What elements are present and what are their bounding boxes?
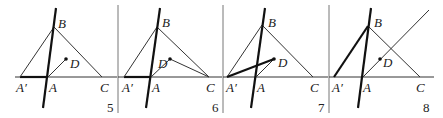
label-c: C — [310, 80, 319, 95]
segment-a-prime-d — [227, 59, 274, 77]
panel-5: B D A′ A C 5 — [15, 8, 117, 115]
label-a: A — [362, 80, 371, 95]
label-d: D — [157, 56, 168, 71]
label-a-prime: A′ — [121, 80, 133, 95]
label-b: B — [374, 15, 382, 30]
label-d: D — [277, 55, 288, 70]
label-b: B — [268, 15, 276, 30]
point-d — [378, 57, 382, 61]
geometry-figure: B D A′ A C 5 B D A′ A C 6 B D A′ A C — [0, 0, 443, 118]
label-a-prime: A′ — [331, 80, 343, 95]
panel-number: 6 — [212, 100, 219, 115]
label-d: D — [382, 55, 393, 70]
side-b-c — [262, 25, 313, 77]
point-d — [168, 57, 172, 61]
label-a: A — [48, 80, 57, 95]
label-b: B — [58, 16, 66, 31]
panel-number: 7 — [318, 100, 325, 115]
panel-number: 8 — [423, 100, 430, 115]
panel-6: B D A′ A C 6 — [118, 8, 222, 115]
ray-a-d — [363, 10, 429, 77]
side-b-c — [368, 26, 420, 77]
label-a: A — [256, 80, 265, 95]
segment-a-d — [48, 59, 66, 77]
label-a: A — [151, 80, 160, 95]
label-c: C — [206, 80, 215, 95]
label-d: D — [69, 56, 80, 71]
panel-7: B D A′ A C 7 — [223, 8, 328, 115]
diagram-canvas: B D A′ A C 5 B D A′ A C 6 B D A′ A C — [0, 0, 443, 118]
panel-number: 5 — [107, 100, 114, 115]
label-a-prime: A′ — [15, 80, 27, 95]
point-d — [64, 57, 68, 61]
point-d — [272, 57, 276, 61]
segment-d-c — [170, 59, 209, 77]
label-a-prime: A′ — [225, 80, 237, 95]
label-b: B — [162, 15, 170, 30]
label-c: C — [416, 80, 425, 95]
panel-8: B D A′ A C 8 — [329, 8, 434, 115]
label-c: C — [100, 80, 109, 95]
